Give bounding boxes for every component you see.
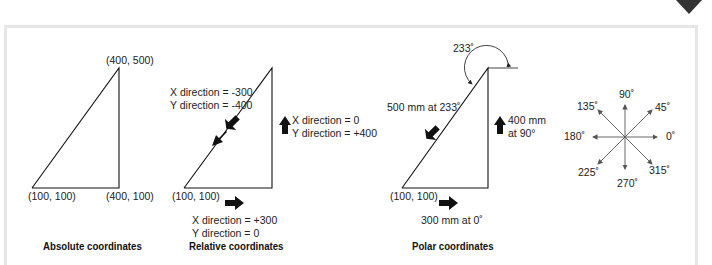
compass-90-label: 90˚ <box>619 88 634 101</box>
polar-horiz-label: 300 mm at 0˚ <box>421 214 483 227</box>
polar-caption: Polar coordinates <box>412 240 494 252</box>
absolute-bottom-left-label: (100, 100) <box>28 190 76 203</box>
compass-rose <box>593 105 657 169</box>
polar-triangle <box>402 45 518 188</box>
compass-315-label: 315˚ <box>649 164 670 177</box>
compass-270-label: 270˚ <box>617 177 638 190</box>
compass-0-label: 0˚ <box>666 130 675 143</box>
relative-vert-y-label: Y direction = +400 <box>292 127 377 140</box>
polar-diag-label: 500 mm at 233˚ <box>387 101 461 114</box>
relative-caption: Relative coordinates <box>189 240 283 252</box>
polar-vert-label-2: at 90° <box>508 127 536 140</box>
compass-180-label: 180˚ <box>564 130 585 143</box>
relative-horiz-y-label: Y direction = 0 <box>192 227 259 240</box>
absolute-triangle <box>32 68 119 188</box>
relative-vert-x-label: X direction = 0 <box>292 114 359 127</box>
polar-vert-label-1: 400 mm <box>508 114 546 127</box>
relative-bottom-left-label: (100, 100) <box>172 190 220 203</box>
relative-diag-x-label: X direction = -300 <box>170 86 253 99</box>
compass-225-label: 225˚ <box>578 166 599 179</box>
relative-horiz-x-label: X direction = +300 <box>192 214 277 227</box>
relative-diag-y-label: Y direction = -400 <box>170 99 252 112</box>
polar-angle-label: 233˚ <box>453 42 474 55</box>
polar-bottom-left-label: (100, 100) <box>390 190 438 203</box>
relative-arrows <box>212 112 291 210</box>
absolute-top-label: (400, 500) <box>106 54 154 67</box>
absolute-caption: Absolute coordinates <box>43 240 142 252</box>
absolute-bottom-right-label: (400, 100) <box>106 190 154 203</box>
compass-135-label: 135˚ <box>577 100 598 113</box>
compass-45-label: 45˚ <box>655 101 670 114</box>
